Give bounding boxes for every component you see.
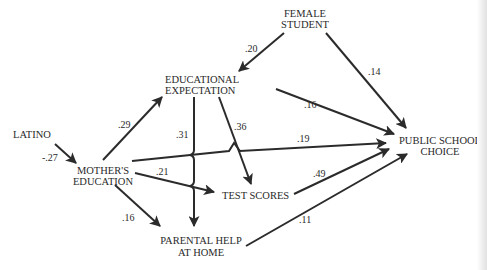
- node-educational-expectation: EDUCATIONAL EXPECTATION: [165, 74, 239, 96]
- svg-text:PARENTAL HELP: PARENTAL HELP: [160, 235, 242, 246]
- path-diagram: .20 .14 .16 .29 .31 .36 -.27 .19 .21 .49…: [0, 0, 487, 270]
- coef-mothers-ed-to-choice: .19: [297, 133, 310, 144]
- edge-expectation-to-choice: [276, 89, 394, 134]
- coef-latino-to-mothers-ed: -.27: [42, 152, 58, 163]
- edge-mothers-ed-to-expectation: [103, 97, 162, 160]
- svg-text:MOTHER'S: MOTHER'S: [77, 165, 129, 176]
- edge-female-to-choice: [326, 33, 406, 128]
- svg-text:CHOICE: CHOICE: [420, 146, 459, 157]
- coef-female-to-expectation: .20: [245, 43, 258, 54]
- edge-expectation-to-test-scores: [219, 97, 251, 184]
- coef-parental-help-to-choice: .11: [299, 214, 311, 225]
- edge-latino-to-mothers-ed: [55, 144, 76, 163]
- edge-expectation-to-parental-help: [190, 97, 194, 226]
- node-latino: LATINO: [13, 129, 51, 140]
- coef-expectation-to-test-scores: .36: [234, 121, 247, 132]
- svg-text:AT HOME: AT HOME: [178, 247, 224, 258]
- svg-text:EDUCATIONAL: EDUCATIONAL: [165, 74, 239, 85]
- svg-text:EDUCATION: EDUCATION: [73, 176, 133, 187]
- node-female-student: FEMALE STUDENT: [281, 8, 329, 30]
- node-parental-help: PARENTAL HELP AT HOME: [160, 235, 242, 258]
- svg-text:TEST SCORES: TEST SCORES: [222, 190, 289, 201]
- node-public-school-choice: PUBLIC SCHOOL CHOICE: [399, 135, 481, 157]
- coef-expectation-to-parental-help: .31: [176, 129, 189, 140]
- coef-mothers-ed-to-test-scores: .21: [156, 166, 169, 177]
- svg-text:PUBLIC SCHOOL: PUBLIC SCHOOL: [399, 135, 481, 146]
- coef-expectation-to-choice: .16: [304, 99, 317, 110]
- svg-text:STUDENT: STUDENT: [281, 19, 329, 30]
- edge-mothers-ed-to-choice: [132, 143, 386, 161]
- edge-mothers-ed-to-test-scores: [135, 173, 214, 192]
- svg-text:FEMALE: FEMALE: [284, 8, 326, 19]
- coef-mothers-ed-to-parental-help: .16: [122, 212, 135, 223]
- page-gutter-shadow: [477, 0, 487, 270]
- node-mothers-education: MOTHER'S EDUCATION: [73, 165, 133, 187]
- svg-text:EXPECTATION: EXPECTATION: [165, 85, 236, 96]
- coef-test-scores-to-choice: .49: [313, 168, 326, 179]
- svg-text:LATINO: LATINO: [13, 129, 51, 140]
- coef-female-to-choice: .14: [368, 66, 381, 77]
- node-test-scores: TEST SCORES: [222, 190, 289, 201]
- coef-mothers-ed-to-expectation: .29: [118, 119, 131, 130]
